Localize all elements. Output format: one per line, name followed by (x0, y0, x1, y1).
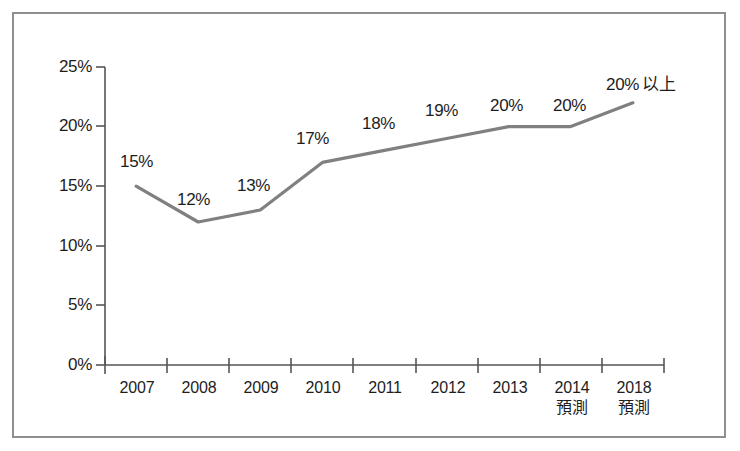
x-tick-year: 2018 (603, 378, 665, 397)
x-tick-year: 2014 (541, 378, 603, 397)
y-tick-label-5: 5% (34, 295, 92, 315)
x-tick-label-2008: 2008 (168, 378, 230, 397)
data-label-2009: 13% (237, 176, 270, 196)
x-tick-year: 2011 (354, 378, 416, 397)
y-axis-ticks (96, 67, 105, 365)
x-tick-label-2011: 2011 (354, 378, 416, 397)
x-tick-year: 2012 (417, 378, 479, 397)
data-label-2012: 19% (425, 101, 458, 121)
x-tick-label-2012: 2012 (417, 378, 479, 397)
x-tick-label-2014: 2014 預測 (541, 378, 603, 418)
y-tick-label-15: 15% (34, 176, 92, 196)
x-tick-year: 2013 (479, 378, 541, 397)
data-label-2008: 12% (177, 190, 210, 210)
data-label-2018: 20%以上 (606, 70, 676, 95)
x-tick-year: 2007 (106, 378, 168, 397)
data-label-suffix: 以上 (642, 75, 675, 94)
x-tick-label-2018: 2018 預測 (603, 378, 665, 418)
y-tick-label-10: 10% (34, 236, 92, 256)
y-tick-label-0: 0% (34, 355, 92, 375)
data-label-2010: 17% (296, 129, 329, 149)
x-tick-year: 2009 (230, 378, 292, 397)
chart-figure: 25% 20% 15% 10% 5% 0% 2007 2008 2009 201… (0, 0, 740, 451)
data-label-2014: 20% (553, 96, 586, 116)
x-tick-year: 2008 (168, 378, 230, 397)
y-tick-label-20: 20% (34, 116, 92, 136)
x-tick-label-2009: 2009 (230, 378, 292, 397)
x-tick-label-2007: 2007 (106, 378, 168, 397)
x-tick-label-2013: 2013 (479, 378, 541, 397)
x-tick-year: 2010 (292, 378, 354, 397)
data-label-2011: 18% (362, 114, 395, 134)
data-label-value: 20% (606, 75, 639, 94)
data-label-2007: 15% (120, 152, 153, 172)
y-tick-label-25: 25% (34, 57, 92, 77)
x-tick-forecast-note: 預測 (603, 397, 665, 418)
data-label-2013: 20% (490, 96, 523, 116)
x-tick-forecast-note: 預測 (541, 397, 603, 418)
x-tick-label-2010: 2010 (292, 378, 354, 397)
